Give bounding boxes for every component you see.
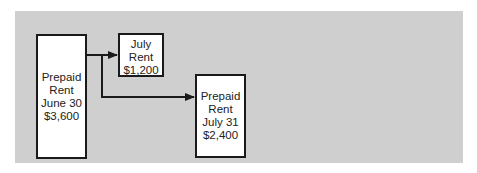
node-label-line: Rent <box>49 84 73 97</box>
node-prepaid-rent-june-30: Prepaid Rent June 30 $3,600 <box>36 34 87 159</box>
node-prepaid-rent-july-31: Prepaid Rent July 31 $2,400 <box>195 74 246 158</box>
node-amount: $2,400 <box>203 129 238 142</box>
node-label-line: Rent <box>208 103 232 116</box>
node-amount: $3,600 <box>44 110 79 123</box>
node-amount: $1,200 <box>123 64 158 77</box>
node-label-line: Rent <box>129 51 153 64</box>
node-july-rent: July Rent $1,200 <box>118 33 164 77</box>
node-label-line: July <box>131 38 151 51</box>
node-label-line: July 31 <box>202 116 238 129</box>
node-label-line: Prepaid <box>42 71 82 84</box>
node-label-line: June 30 <box>41 97 82 110</box>
node-label-line: Prepaid <box>201 90 241 103</box>
